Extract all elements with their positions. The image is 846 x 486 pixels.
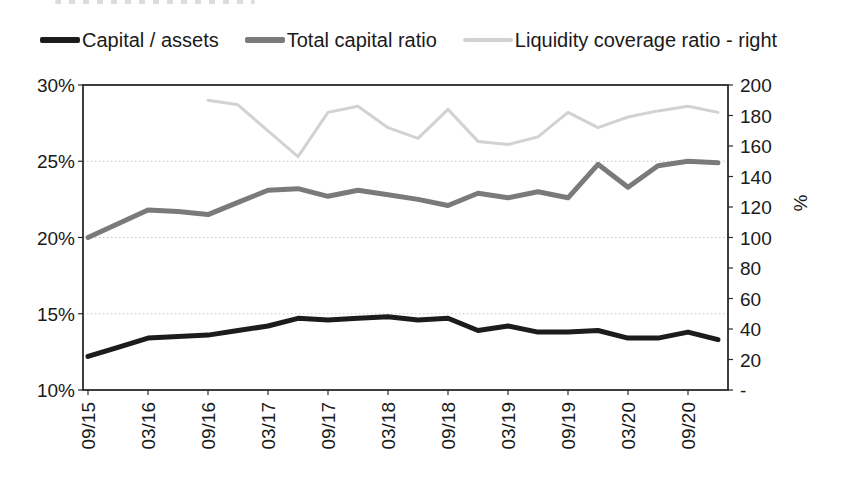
x-axis-label: 03/18 <box>378 402 399 450</box>
right-axis-label: 80 <box>740 258 761 279</box>
left-axis-label: 25% <box>37 151 75 172</box>
right-axis-label: 160 <box>740 136 772 157</box>
left-axis-label: 30% <box>37 75 75 96</box>
right-axis-label: 60 <box>740 289 761 310</box>
x-axis-label: 03/20 <box>618 402 639 450</box>
left-axis-label: 10% <box>37 380 75 401</box>
series-line-1 <box>88 161 718 237</box>
right-axis-label: 40 <box>740 319 761 340</box>
series-line-2 <box>208 100 718 156</box>
x-axis-label: 09/20 <box>678 402 699 450</box>
x-axis-label: 09/18 <box>438 402 459 450</box>
left-axis-label: 20% <box>37 228 75 249</box>
line-chart: 30%25%20%15%10%2001801601401201008060402… <box>0 0 846 486</box>
x-axis-label: 09/15 <box>78 402 99 450</box>
x-axis-label: 03/19 <box>498 402 519 450</box>
x-axis-label: 09/17 <box>318 402 339 450</box>
left-axis-label: 15% <box>37 304 75 325</box>
right-axis-label: 120 <box>740 197 772 218</box>
right-axis-label: 200 <box>740 75 772 96</box>
x-axis-label: 09/16 <box>198 402 219 450</box>
x-axis-label: 03/16 <box>138 402 159 450</box>
x-axis-label: 09/19 <box>558 402 579 450</box>
right-axis-label: 20 <box>740 350 761 371</box>
chart-figure: { "colors": { "background": "#ffffff", "… <box>0 0 846 486</box>
x-axis-label: 03/17 <box>258 402 279 450</box>
right-axis-label: 180 <box>740 106 772 127</box>
series-line-0 <box>88 317 718 357</box>
right-axis-label: 100 <box>740 228 772 249</box>
right-axis-title: % <box>790 194 811 211</box>
right-axis-label: 140 <box>740 167 772 188</box>
right-axis-label: - <box>740 380 746 401</box>
